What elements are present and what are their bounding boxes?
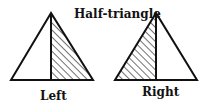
left-triangle (11, 13, 93, 80)
half-triangle-diagram: Half-triangle Left Right (0, 0, 205, 108)
diagram-title: Half-triangle (74, 7, 161, 21)
right-triangle (115, 13, 197, 80)
right-triangle-label: Right (142, 85, 179, 99)
left-triangle-label: Left (40, 89, 67, 103)
